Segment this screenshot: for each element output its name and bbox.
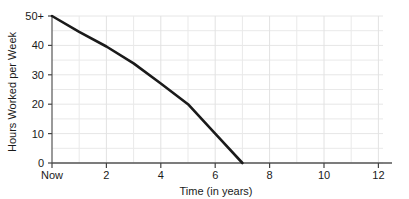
x-tick-label-now: Now	[41, 169, 63, 181]
y-tick-label-30: 30	[32, 69, 44, 81]
y-axis-title: Hours Worked per Week	[6, 31, 18, 152]
line-chart-plot: 0 10 20 30 40 50+ Now 2 4 6 8 10 12 Time…	[0, 0, 409, 199]
y-tick-label-20: 20	[32, 98, 44, 110]
x-tick-label-4: 4	[158, 169, 164, 181]
chart-figure: 0 10 20 30 40 50+ Now 2 4 6 8 10 12 Time…	[0, 0, 409, 199]
x-tick-label-12: 12	[372, 169, 384, 181]
x-tick-label-2: 2	[103, 169, 109, 181]
x-tick-label-10: 10	[318, 169, 330, 181]
x-tick-label-6: 6	[212, 169, 218, 181]
x-tick-label-8: 8	[267, 169, 273, 181]
y-tick-label-40: 40	[32, 39, 44, 51]
y-tick-label-50-plus: 50+	[25, 10, 44, 22]
x-axis-ticks	[52, 163, 378, 168]
y-tick-label-0: 0	[38, 157, 44, 169]
x-axis-title: Time (in years)	[180, 185, 253, 197]
y-tick-label-10: 10	[32, 128, 44, 140]
